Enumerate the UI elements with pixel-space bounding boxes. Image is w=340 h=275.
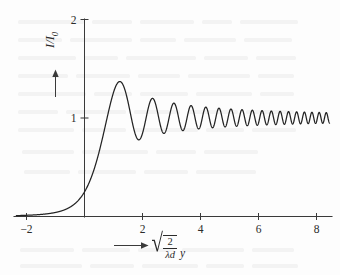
- y-axis-label: I/I0: [44, 32, 59, 48]
- radical-sign: √: [151, 232, 162, 261]
- fraction: 2 λd: [163, 235, 177, 261]
- fraction-numerator: 2: [166, 236, 175, 248]
- x-tick-label-2: 2: [140, 223, 146, 235]
- x-tick-label-−2: −2: [20, 223, 32, 235]
- figure-root: −22468 12 I/I0 √ 2 λd y: [0, 0, 340, 275]
- y-axis-label-text: I/I: [43, 36, 57, 48]
- x-axis-label-variable: y: [180, 248, 185, 261]
- fraction-denominator: λd: [163, 248, 177, 261]
- x-axis-label: √ 2 λd y: [150, 232, 185, 261]
- y-axis-tick-labels: 12: [71, 14, 77, 125]
- arrow-up-icon: [52, 70, 58, 97]
- intensity-curve: [16, 82, 329, 216]
- y-axis-label-subscript: 0: [50, 32, 60, 36]
- x-tick-label-6: 6: [256, 223, 262, 235]
- x-tick-label-8: 8: [314, 223, 320, 235]
- y-tick-label-1: 1: [71, 112, 77, 124]
- y-tick-label-2: 2: [71, 14, 77, 26]
- arrow-right-icon: [114, 242, 149, 249]
- x-tick-label-4: 4: [198, 223, 204, 235]
- sqrt-expression: √ 2 λd: [150, 232, 177, 261]
